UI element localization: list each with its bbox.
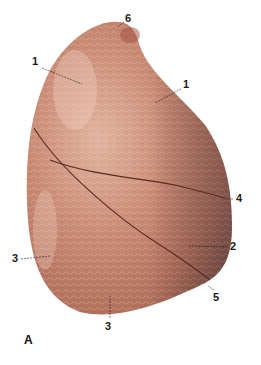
panel-letter: A bbox=[24, 333, 33, 347]
label-5: 5 bbox=[213, 292, 219, 303]
label-3-left: 3 bbox=[12, 253, 18, 264]
lung-body bbox=[27, 22, 232, 315]
label-2: 2 bbox=[230, 241, 236, 252]
lung-illustration bbox=[0, 0, 261, 365]
label-1-upper-right: 1 bbox=[183, 79, 189, 90]
label-6-apex: 6 bbox=[125, 13, 131, 24]
label-4: 4 bbox=[236, 193, 242, 204]
label-1-upper-left: 1 bbox=[32, 56, 38, 67]
label-3-bottom: 3 bbox=[105, 321, 111, 332]
